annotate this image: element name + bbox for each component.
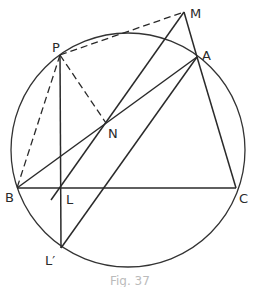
- label-L: L: [66, 192, 74, 207]
- segment-M-N-L: [51, 12, 184, 200]
- label-L-prime: L′: [45, 253, 55, 268]
- segment-AC: [197, 57, 236, 188]
- label-C: C: [239, 191, 248, 206]
- circumcircle: [11, 33, 245, 267]
- segment-BA: [17, 57, 197, 188]
- label-P: P: [52, 40, 60, 55]
- segment-PL-prime: [60, 55, 61, 248]
- figure-caption: Fig. 37: [110, 274, 150, 287]
- segment-PN: [60, 55, 106, 123]
- label-B: B: [5, 190, 14, 205]
- label-N: N: [108, 126, 118, 141]
- geometry-diagram: P M A N B L C L′ Fig. 37: [0, 0, 259, 287]
- label-A: A: [202, 48, 211, 63]
- label-M: M: [190, 6, 201, 21]
